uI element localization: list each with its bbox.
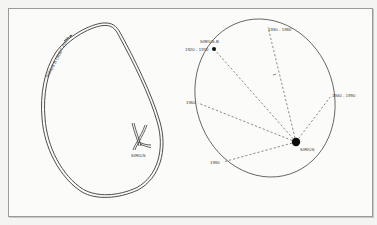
sirius-a-dot [292, 138, 300, 146]
left-orbit-panel: SIRIUS B ORBIT PATH SIRIUS [42, 23, 164, 197]
line-1990 [223, 142, 296, 162]
left-sirius-label: SIRIUS [131, 153, 146, 158]
line-1920-1970 [214, 49, 296, 142]
right-sirius-label: SIRIUS [300, 147, 315, 152]
label-1940-1990: 1940 - 1990 [332, 93, 356, 98]
sirius-symbol-icon [132, 123, 151, 150]
label-1990: 1990 [210, 160, 220, 165]
sirius-orbit-diagram: SIRIUS B ORBIT PATH SIRIUS SIRIUS-B 1920… [0, 0, 377, 225]
sirius-b-label: SIRIUS-B [200, 39, 219, 44]
tick-mark [273, 74, 276, 75]
line-1960 [198, 103, 296, 142]
line-1930-1980 [268, 27, 296, 142]
label-1930-1980: 1930 - 1980 [268, 27, 292, 32]
right-orbit-ellipse [175, 1, 356, 196]
right-orbit-panel: SIRIUS-B 1920 - 1970 SIRIUS 1930 - 1980 … [175, 1, 356, 196]
label-1920-1970: 1920 - 1970 [185, 47, 209, 52]
label-1960: 1960 [186, 100, 196, 105]
orbit-path-label: SIRIUS B ORBIT PATH [44, 36, 70, 78]
position-lines [198, 27, 331, 162]
line-1940-1990 [296, 96, 331, 142]
sirius-b-dot [212, 47, 216, 51]
